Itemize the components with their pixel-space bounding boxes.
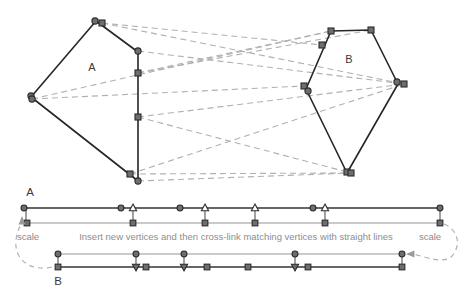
scale-left-label: scale	[17, 231, 39, 242]
vertex-square-marker[interactable]	[127, 171, 133, 177]
polygon-b[interactable]: B	[301, 27, 407, 176]
cross-link-line	[138, 117, 351, 173]
cross-link-line	[32, 86, 304, 99]
vertex-square-marker[interactable]	[135, 114, 141, 120]
vertex-square-marker[interactable]	[202, 220, 208, 226]
cross-link-line	[138, 51, 404, 84]
vertex-square-marker[interactable]	[143, 264, 149, 270]
vertex-square-marker[interactable]	[130, 220, 136, 226]
cross-link-line	[102, 23, 322, 45]
scale-right-arrowhead	[406, 251, 414, 258]
vertex-square-marker[interactable]	[328, 28, 334, 34]
vertex-circle-marker[interactable]	[305, 88, 311, 94]
row-a[interactable]: A	[21, 186, 443, 226]
vertex-square-marker[interactable]	[135, 70, 141, 76]
scale-left-curve	[16, 223, 52, 268]
vertex-square-marker[interactable]	[368, 27, 374, 33]
cross-link-lines	[32, 23, 404, 181]
vertex-circle-marker[interactable]	[55, 251, 61, 257]
vertex-square-marker[interactable]	[24, 220, 30, 226]
polygon-a-outline	[31, 21, 138, 181]
vertex-circle-marker[interactable]	[29, 96, 35, 102]
polygon-a-label: A	[88, 61, 96, 73]
vertex-square-marker[interactable]	[322, 220, 328, 226]
cross-link-line	[138, 84, 404, 117]
row-b-connectors	[58, 254, 402, 267]
vertex-circle-marker[interactable]	[92, 18, 98, 24]
row-b-label: B	[54, 275, 62, 287]
vertex-circle-marker[interactable]	[181, 251, 187, 257]
vertex-circle-marker[interactable]	[394, 79, 400, 85]
scale-right-label: scale	[419, 231, 441, 242]
vertex-circle-marker[interactable]	[21, 205, 27, 211]
vertex-square-marker[interactable]	[305, 264, 311, 270]
vertex-square-marker[interactable]	[99, 20, 105, 26]
vertex-square-marker[interactable]	[204, 264, 210, 270]
cross-link-line	[138, 173, 351, 181]
cross-link-line	[130, 84, 404, 174]
row-b[interactable]: B	[54, 251, 405, 287]
vertex-circle-marker[interactable]	[292, 251, 298, 257]
polygon-b-label: B	[345, 53, 352, 65]
polygon-a[interactable]: A	[28, 18, 141, 184]
vertex-circle-marker[interactable]	[310, 205, 316, 211]
vertex-square-marker[interactable]	[319, 42, 325, 48]
row-a-label: A	[26, 186, 34, 198]
polygon-b-vertices[interactable]	[301, 27, 407, 176]
vertex-square-marker[interactable]	[401, 81, 407, 87]
scale-arrows: scalescale	[16, 216, 458, 268]
cross-link-line	[138, 31, 331, 73]
vertex-circle-marker[interactable]	[135, 178, 141, 184]
cross-link-line	[130, 173, 351, 174]
vertex-square-marker[interactable]	[245, 264, 251, 270]
vertex-circle-marker[interactable]	[118, 205, 124, 211]
vertex-circle-marker[interactable]	[133, 251, 139, 257]
diagram-canvas: A B A B scalescale Insert	[0, 0, 471, 294]
vertex-circle-marker[interactable]	[135, 48, 141, 54]
vertex-square-marker[interactable]	[55, 264, 61, 270]
vertex-square-marker[interactable]	[437, 220, 443, 226]
vertex-circle-marker[interactable]	[437, 205, 443, 211]
vertex-square-marker[interactable]	[252, 220, 258, 226]
vertex-circle-marker[interactable]	[177, 205, 183, 211]
cross-link-line	[32, 31, 331, 99]
polygon-correspondence-diagram: A B A B scalescale Insert	[0, 0, 471, 294]
vertex-square-marker[interactable]	[399, 264, 405, 270]
polygon-a-vertices[interactable]	[28, 18, 141, 184]
vertex-square-marker[interactable]	[348, 170, 354, 176]
diagram-caption: Insert new vertices and then cross-link …	[79, 231, 393, 242]
row-a-connectors	[26, 208, 440, 223]
vertex-circle-marker[interactable]	[399, 251, 405, 257]
